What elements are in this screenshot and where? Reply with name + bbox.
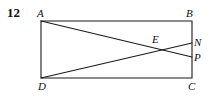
geometry-diagram — [0, 0, 216, 99]
vertex-label-b: B — [186, 8, 193, 19]
rectangle-abcd — [41, 21, 192, 78]
vertex-label-e: E — [152, 34, 159, 45]
figure-page: 12 A B C D E N P — [0, 0, 216, 99]
vertex-label-d: D — [38, 81, 46, 92]
vertex-label-n: N — [194, 37, 201, 48]
vertex-label-c: C — [188, 81, 195, 92]
segment-dn — [41, 43, 192, 78]
segment-ap — [41, 21, 192, 57]
vertex-label-p: P — [194, 52, 201, 63]
vertex-label-a: A — [37, 8, 44, 19]
